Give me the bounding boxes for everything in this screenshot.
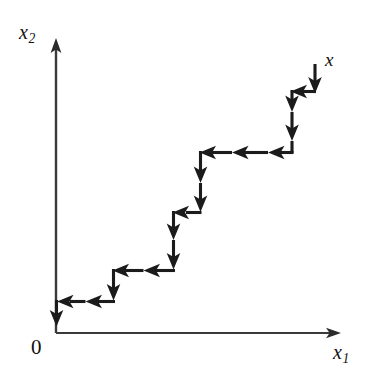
segment-down-6 — [50, 300, 64, 327]
origin-label: 0 — [31, 337, 42, 358]
point-label-x: x — [325, 50, 333, 69]
segment-left-3 — [173, 206, 202, 220]
segment-left-2 — [200, 146, 294, 160]
segment-left-5 — [57, 295, 115, 309]
segment-down-4 — [167, 211, 181, 270]
segment-down-5 — [107, 269, 121, 301]
figure-canvas: x2 x1 x 0 — [0, 0, 370, 377]
x-axis-label-subscript: 1 — [342, 351, 349, 366]
segment-down-1 — [308, 64, 322, 94]
segment-left-1 — [291, 85, 317, 99]
axes-group — [51, 38, 341, 338]
segment-down-2 — [285, 90, 299, 153]
segment-down-3 — [194, 151, 208, 212]
staircase-diagram — [0, 0, 370, 377]
segment-left-4 — [113, 264, 176, 278]
x-axis-label: x1 — [333, 342, 349, 366]
y-axis-label-subscript: 2 — [28, 31, 35, 46]
staircase-path-group — [50, 64, 322, 327]
x-axis-label-base: x — [333, 341, 342, 363]
y-axis-label: x2 — [19, 22, 35, 46]
y-axis-label-base: x — [19, 21, 28, 43]
